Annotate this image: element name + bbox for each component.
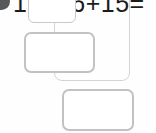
filled-circle-icon xyxy=(0,0,10,10)
answer-box-1[interactable] xyxy=(28,0,76,23)
answer-box-3-value xyxy=(64,91,132,129)
answer-box-2-value xyxy=(26,34,93,71)
worksheet-crop: 17+16+15= xyxy=(0,0,156,133)
answer-box-2[interactable] xyxy=(24,32,95,73)
answer-box-3[interactable] xyxy=(62,89,134,131)
answer-box-1-value xyxy=(29,0,75,22)
